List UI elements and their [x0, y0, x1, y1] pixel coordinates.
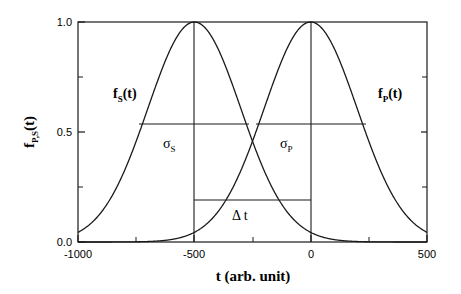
x-tick-label-500: 500 — [418, 248, 436, 260]
y-title-subscript: P,S — [30, 131, 40, 143]
figure-panel: 1.0 0.5 0.0 -1000 -500 0 500 — [0, 0, 461, 294]
y-axis-title: fP,S(t) — [21, 116, 40, 148]
gaussian-pulse-plot: 1.0 0.5 0.0 -1000 -500 0 500 — [0, 0, 461, 294]
x-axis-title: t (arb. unit) — [216, 268, 291, 285]
fs-rest: (t) — [123, 86, 137, 102]
sigma-s-subscript: S — [171, 144, 176, 154]
sigma-p-subscript: P — [288, 144, 293, 154]
fp-rest: (t) — [388, 86, 402, 102]
y-tick-label-1: 1.0 — [57, 16, 72, 28]
y-tick-label-05: 0.5 — [57, 126, 72, 138]
plot-frame — [78, 22, 427, 242]
y-tick-label-0: 0.0 — [57, 236, 72, 248]
delta-t-label: Δ t — [232, 208, 248, 223]
x-tick-label-m500: -500 — [183, 248, 205, 260]
y-title-rest: (t) — [21, 116, 38, 131]
x-tick-label-m1000: -1000 — [64, 248, 92, 260]
x-tick-label-0: 0 — [308, 248, 314, 260]
